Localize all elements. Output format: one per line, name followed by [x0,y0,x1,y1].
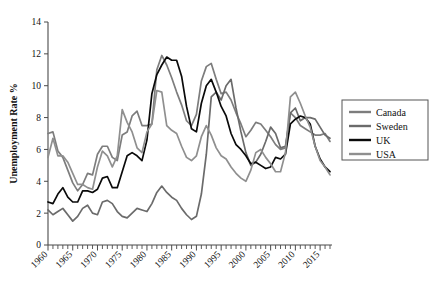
y-tick-label: 6 [36,145,41,155]
y-axis-title: Unemployment Rate % [8,83,19,184]
y-tick-group: 02468101214 [32,17,49,250]
legend-label-uk: UK [376,135,391,146]
x-tick-label: 1975 [103,249,124,270]
legend-label-sweden: Sweden [376,121,408,132]
y-tick-label: 12 [32,49,42,59]
y-tick-label: 14 [32,17,42,27]
x-tick-label-group: 1960196519701975198019851990199520002005… [29,249,322,270]
legend-label-usa: USA [376,149,397,160]
x-tick-label: 1980 [128,249,149,270]
y-axis-group: 02468101214 [32,17,49,250]
series-group [48,55,330,221]
x-tick-label: 1990 [177,249,198,270]
series-line-sweden [48,79,330,221]
x-tick-label: 2005 [252,249,273,270]
y-tick-label: 8 [36,113,41,123]
y-tick-label: 2 [36,209,41,219]
legend-label-canada: Canada [376,107,407,118]
x-tick-label: 2015 [301,249,322,270]
x-tick-label: 1960 [29,249,50,270]
x-tick-label: 2010 [276,249,297,270]
x-axis-group: 1960196519701975198019851990199520002005… [29,245,332,270]
y-tick-label: 0 [36,240,41,250]
x-tick-label: 2000 [227,249,248,270]
x-tick-label: 1985 [153,249,174,270]
x-tick-label: 1995 [202,249,223,270]
x-tick-label: 1965 [54,249,75,270]
chart-canvas: 02468101214 1960196519701975198019851990… [0,0,439,295]
unemployment-rate-chart: 02468101214 1960196519701975198019851990… [0,0,439,295]
chart-legend: CanadaSwedenUKUSA [342,100,428,160]
y-tick-label: 4 [36,177,41,187]
y-tick-label: 10 [32,81,42,91]
x-tick-label: 1970 [78,249,99,270]
